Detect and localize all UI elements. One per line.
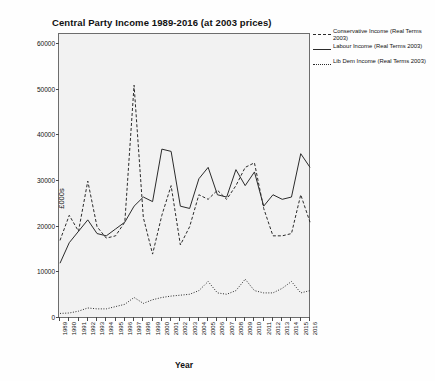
plot-area: £000s 0100002000030000400005000060000 19… xyxy=(58,33,310,318)
x-tick-label: 2003 xyxy=(192,322,198,335)
series-line xyxy=(60,279,310,313)
x-tick-label: 1992 xyxy=(90,322,96,335)
series-line xyxy=(60,85,310,254)
legend-item-label: Conservative Income (Real Terms 2003) xyxy=(332,28,432,42)
x-tick-label: 2013 xyxy=(284,322,290,335)
x-tick-label: 1999 xyxy=(155,322,161,335)
y-tick-label: 40000 xyxy=(37,131,55,138)
legend-item-label: Labour Income (Real Terms 2003) xyxy=(332,43,422,50)
legend-line-icon xyxy=(312,45,332,54)
x-tick-label: 1991 xyxy=(81,322,87,335)
y-tick-label: 10000 xyxy=(37,268,55,275)
x-tick-label: 2016 xyxy=(312,322,318,335)
x-tick-label: 2014 xyxy=(293,322,299,335)
x-tick-label: 1994 xyxy=(108,322,114,335)
y-tick-label: 20000 xyxy=(37,222,55,229)
legend-item[interactable]: Lib Dem Income (Real Terms 2003) xyxy=(312,58,432,72)
series-lines xyxy=(59,34,311,319)
x-tick-label: 2008 xyxy=(238,322,244,335)
x-tick-label: 2009 xyxy=(247,322,253,335)
y-tick-label: 0 xyxy=(51,314,55,321)
legend-line-icon xyxy=(312,60,332,69)
x-tick-label: 1998 xyxy=(145,322,151,335)
x-axis-title: Year xyxy=(58,360,310,370)
chart-title: Central Party Income 1989-2016 (at 2003 … xyxy=(52,17,272,28)
chart-container: Central Party Income 1989-2016 (at 2003 … xyxy=(0,0,435,381)
x-tick-label: 1989 xyxy=(62,322,68,335)
chart-legend: Conservative Income (Real Terms 2003)Lab… xyxy=(312,28,432,73)
legend-item-label: Lib Dem Income (Real Terms 2003) xyxy=(332,58,426,65)
x-tick-label: 1997 xyxy=(136,322,142,335)
x-tick-label: 2001 xyxy=(173,322,179,335)
x-tick-label: 2005 xyxy=(210,322,216,335)
x-tick-label: 1990 xyxy=(71,322,77,335)
x-tick-label: 2002 xyxy=(182,322,188,335)
y-tick-label: 50000 xyxy=(37,85,55,92)
legend-item[interactable]: Conservative Income (Real Terms 2003) xyxy=(312,28,432,42)
x-tick-label: 1995 xyxy=(118,322,124,335)
y-tick-label: 30000 xyxy=(37,177,55,184)
x-tick-label: 2012 xyxy=(275,322,281,335)
x-tick-label: 2015 xyxy=(303,322,309,335)
legend-item[interactable]: Labour Income (Real Terms 2003) xyxy=(312,43,432,57)
x-tick-label: 2004 xyxy=(201,322,207,335)
x-tick-label: 1996 xyxy=(127,322,133,335)
x-tick-label: 2007 xyxy=(229,322,235,335)
x-tick-label: 2011 xyxy=(266,322,272,335)
series-line xyxy=(60,149,310,263)
y-tick-label: 60000 xyxy=(37,40,55,47)
x-tick-label: 1993 xyxy=(99,322,105,335)
x-tick-label: 2010 xyxy=(256,322,262,335)
x-tick-label: 2006 xyxy=(219,322,225,335)
legend-line-icon xyxy=(312,30,332,39)
x-tick-label: 2000 xyxy=(164,322,170,335)
